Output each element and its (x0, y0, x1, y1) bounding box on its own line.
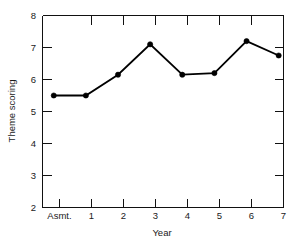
right-axis-ticks (275, 48, 284, 176)
x-tick-label-asmt: Asmt. (47, 210, 71, 221)
x-axis-title: Year (152, 227, 171, 238)
axis-frame (43, 16, 284, 208)
series-marker-group (51, 39, 281, 99)
data-point (212, 71, 217, 76)
y-tick-label-2: 2 (31, 202, 36, 213)
x-tick-label-4: 4 (185, 210, 190, 221)
data-point (276, 53, 281, 58)
x-tick-label-2: 2 (121, 210, 126, 221)
data-point (115, 72, 120, 77)
series-line-path (54, 41, 279, 95)
chart-plot-area: 8 7 6 5 4 3 2 Asmt. 1 2 3 4 5 6 7 Year T… (0, 0, 299, 242)
data-series-theme-scoring (51, 39, 281, 99)
x-tick-label-3: 3 (153, 210, 158, 221)
data-point (244, 39, 249, 44)
y-tick-labels: 8 7 6 5 4 3 2 (31, 10, 36, 213)
x-tick-labels: Asmt. 1 2 3 4 5 6 7 (47, 210, 286, 221)
y-axis-ticks (43, 16, 52, 208)
y-tick-label-6: 6 (31, 74, 36, 85)
data-point (51, 93, 56, 98)
top-axis-ticks (92, 16, 252, 25)
chart-figure: 8 7 6 5 4 3 2 Asmt. 1 2 3 4 5 6 7 Year T… (0, 0, 299, 242)
x-tick-label-5: 5 (217, 210, 222, 221)
y-tick-label-5: 5 (31, 106, 36, 117)
x-tick-label-6: 6 (249, 210, 254, 221)
y-tick-label-8: 8 (31, 10, 36, 21)
data-point (148, 42, 153, 47)
y-tick-label-7: 7 (31, 42, 36, 53)
y-tick-label-4: 4 (31, 138, 36, 149)
axis-frame-path (43, 16, 284, 208)
x-axis-ticks (60, 199, 284, 208)
data-point (180, 72, 185, 77)
y-axis-title: Theme scoring (6, 80, 17, 143)
data-point (83, 93, 88, 98)
y-tick-label-3: 3 (31, 170, 36, 181)
x-tick-label-7: 7 (281, 210, 286, 221)
x-tick-label-1: 1 (89, 210, 94, 221)
